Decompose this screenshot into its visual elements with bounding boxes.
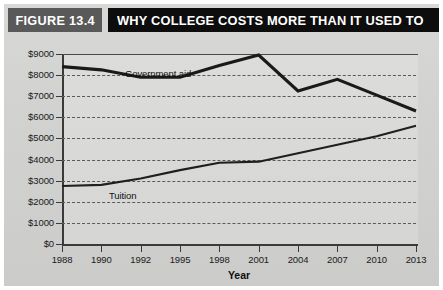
figure-number-label: FIGURE 13.4: [8, 8, 102, 32]
series-label-tuition: Tuition: [109, 190, 136, 201]
figure-title-bar: FIGURE 13.4 WHY COLLEGE COSTS MORE THAN …: [8, 8, 439, 32]
series-label-government-aid: Government aid: [125, 68, 191, 79]
line-chart: $0$1000$2000$3000$4000$5000$6000$7000$80…: [4, 32, 439, 290]
series-lines: [4, 32, 439, 290]
figure-title-text: WHY COLLEGE COSTS MORE THAN IT USED TO: [117, 13, 424, 28]
x-axis-title: Year: [62, 269, 416, 281]
figure-title: WHY COLLEGE COSTS MORE THAN IT USED TO: [108, 8, 440, 32]
figure-panel: FIGURE 13.4 WHY COLLEGE COSTS MORE THAN …: [0, 0, 443, 290]
series-line-government-aid: [62, 55, 416, 111]
series-line-tuition: [62, 126, 416, 186]
